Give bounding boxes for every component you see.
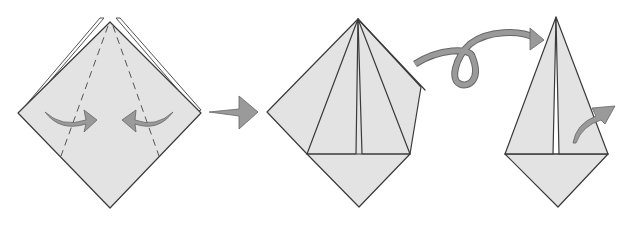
kite-lower	[505, 154, 608, 207]
step-3-diagram	[505, 17, 615, 207]
step-1-diagram	[18, 18, 201, 208]
step-2-diagram	[267, 19, 425, 207]
square-diamond	[18, 22, 201, 208]
turn-over-loop-arrow-icon	[415, 28, 544, 85]
origami-diagram	[0, 0, 625, 226]
right-kite-flap	[556, 17, 608, 154]
next-step-arrow-icon	[209, 96, 258, 129]
